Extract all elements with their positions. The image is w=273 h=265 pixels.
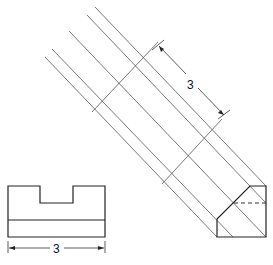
- front-view: 3: [8, 186, 105, 256]
- aux-dimension-label: 3: [187, 78, 194, 92]
- aux-arrowhead-bottom-icon: [218, 110, 224, 115]
- projector-1: [95, 7, 266, 186]
- projector-3: [69, 31, 266, 237]
- front-dimension-label: 3: [53, 242, 60, 256]
- aux-arrowhead-top-icon: [159, 46, 164, 52]
- projector-2: [87, 15, 266, 203]
- reference-line-lower: [162, 119, 222, 184]
- drawing-canvas: 3 3: [0, 0, 273, 265]
- projector-4: [52, 49, 233, 237]
- front-view-outline: [8, 186, 105, 237]
- arrowhead-right-icon: [98, 246, 104, 250]
- aux-dimension-line-top: [159, 46, 186, 74]
- reference-line-upper: [92, 42, 158, 112]
- arrowhead-left-icon: [9, 246, 15, 250]
